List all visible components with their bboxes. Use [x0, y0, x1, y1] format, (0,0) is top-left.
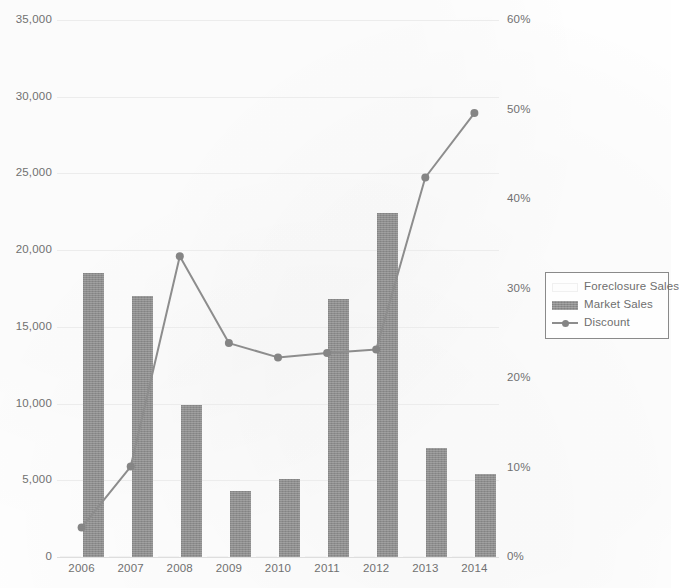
discount-point-2008 — [176, 252, 184, 260]
x-tick-label-2012: 2012 — [352, 563, 401, 575]
legend-item-label: Discount — [584, 317, 630, 329]
primary-y-tick-label: 0 — [45, 551, 52, 563]
x-tick-label-2011: 2011 — [303, 563, 352, 575]
x-axis: 200620072008200920102011201220132014 — [57, 563, 499, 587]
primary-y-tick-label: 5,000 — [22, 474, 52, 486]
primary-y-tick-label: 10,000 — [16, 398, 52, 410]
secondary-y-tick-label: 60% — [507, 14, 531, 26]
x-tick-label-2010: 2010 — [253, 563, 302, 575]
discount-point-2009 — [225, 339, 233, 347]
x-tick-label-2009: 2009 — [204, 563, 253, 575]
secondary-y-tick-label: 20% — [507, 372, 531, 384]
discount-point-2010 — [274, 353, 282, 361]
legend-item: Foreclosure Sales — [552, 278, 662, 296]
plot-area — [57, 20, 499, 557]
discount-point-2006 — [78, 524, 86, 532]
x-tick-label-2013: 2013 — [401, 563, 450, 575]
legend-swatch-foreclosure-icon — [552, 283, 578, 292]
primary-y-tick-label: 20,000 — [16, 244, 52, 256]
chart-legend: Foreclosure SalesMarket SalesDiscount — [545, 272, 669, 339]
secondary-y-tick-label: 0% — [507, 551, 524, 563]
secondary-y-tick-label: 50% — [507, 104, 531, 116]
legend-swatch-market-icon — [552, 301, 578, 310]
legend-item: Discount — [552, 314, 662, 332]
legend-item-label: Foreclosure Sales — [584, 281, 679, 293]
x-tick-label-2006: 2006 — [57, 563, 106, 575]
axis-baseline — [57, 557, 499, 558]
secondary-y-tick-label: 10% — [507, 462, 531, 474]
discount-point-2014 — [470, 109, 478, 117]
primary-y-axis: 05,00010,00015,00020,00025,00030,00035,0… — [0, 0, 60, 588]
discount-point-2007 — [127, 463, 135, 471]
discount-point-2013 — [421, 174, 429, 182]
discount-point-2011 — [323, 349, 331, 357]
legend-item: Market Sales — [552, 296, 662, 314]
primary-y-tick-label: 35,000 — [16, 14, 52, 26]
x-tick-label-2007: 2007 — [106, 563, 155, 575]
discount-line-path — [82, 113, 475, 527]
legend-item-label: Market Sales — [584, 299, 653, 311]
discount-point-2012 — [372, 345, 380, 353]
primary-y-tick-label: 15,000 — [16, 321, 52, 333]
primary-y-tick-label: 25,000 — [16, 167, 52, 179]
discount-line-series — [57, 20, 499, 557]
secondary-y-tick-label: 30% — [507, 283, 531, 295]
primary-y-tick-label: 30,000 — [16, 91, 52, 103]
legend-swatch-discount-icon — [552, 319, 578, 328]
x-tick-label-2014: 2014 — [450, 563, 499, 575]
x-tick-label-2008: 2008 — [155, 563, 204, 575]
secondary-y-tick-label: 40% — [507, 193, 531, 205]
